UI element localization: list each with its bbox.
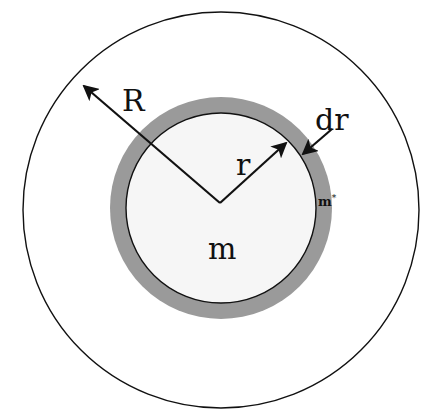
shell-mass-diagram: R dr r m m* <box>0 0 436 419</box>
label-m-inner-mass: m <box>208 234 236 264</box>
inner-sphere <box>126 113 316 303</box>
label-r: r <box>236 150 250 180</box>
diagram-canvas <box>0 0 436 419</box>
label-R: R <box>122 86 145 116</box>
label-m-star-superscript: * <box>332 193 337 203</box>
label-dr: dr <box>315 105 349 135</box>
label-m-star-base: m <box>318 194 332 209</box>
label-m-star-shell-mass: m* <box>318 194 336 208</box>
